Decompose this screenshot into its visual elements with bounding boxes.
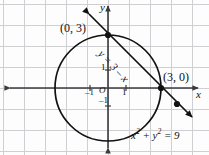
x-tick-label-pos1: 1 <box>122 88 127 97</box>
graph-figure: (0, 3) (3, 0) y x O –1 1 1 –1 y = 3 – x … <box>0 0 209 155</box>
circle-eq-plus: + <box>140 129 153 141</box>
y-axis-label: y <box>100 2 105 13</box>
point-marker-extra <box>174 101 180 107</box>
circle-eq-rest: = 9 <box>161 129 179 141</box>
point-label-3-0: (3, 0) <box>163 71 189 83</box>
point-marker-0-3 <box>105 32 111 38</box>
point-marker-3-0 <box>158 85 164 91</box>
circle-equation-label: x2 + y2 = 9 <box>131 128 180 141</box>
y-tick-label-neg1: –1 <box>99 96 108 105</box>
origin-label: O <box>99 86 106 95</box>
point-label-0-3: (0, 3) <box>60 22 86 34</box>
x-axis-label: x <box>196 89 201 100</box>
x-tick-label-neg1: –1 <box>85 88 94 97</box>
